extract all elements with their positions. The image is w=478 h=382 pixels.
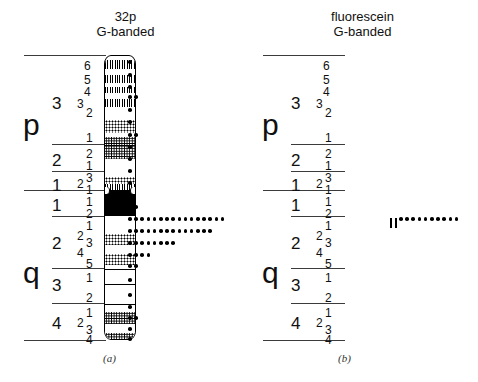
region-label-q4-b: 4	[291, 315, 300, 332]
subband-label-p34-a: 4	[84, 86, 91, 98]
subband-label-q31-b: 1	[325, 272, 332, 284]
signal-dot	[128, 278, 132, 282]
signal-dot	[165, 241, 169, 245]
signal-dot	[134, 253, 138, 257]
signal-dot	[153, 229, 157, 233]
signal-dot	[140, 253, 144, 257]
signal-dot	[153, 217, 157, 221]
leader-line-a-p1	[52, 171, 106, 172]
signal-dot	[140, 217, 144, 221]
subband-label-q24-b: 4	[316, 247, 323, 259]
leader-line-b-q4	[291, 303, 345, 304]
caption-a: (a)	[0, 352, 229, 364]
signal-row-q44	[128, 337, 134, 343]
signal-dot	[134, 217, 138, 221]
signal-row-q41	[128, 305, 134, 311]
signal-dot	[202, 229, 206, 233]
signal-dot	[134, 95, 138, 99]
signal-dot	[134, 241, 138, 245]
subband-label-p34-b: 4	[323, 86, 330, 98]
subband-label-q31-a: 1	[86, 272, 93, 284]
subband-label-q42-a: 2	[77, 317, 84, 329]
signal-dot	[128, 316, 132, 320]
signal-row-p32	[128, 108, 134, 114]
signal-row-q25	[128, 264, 140, 270]
leader-line-a-p2	[52, 144, 106, 145]
leader-line-b-cen	[263, 190, 345, 191]
subband-label-q25-b: 5	[325, 258, 332, 270]
leader-line-a-top	[24, 55, 106, 56]
panel-b-title: fluorescein G-banded	[243, 9, 478, 39]
subband-label-p31-a: 1	[86, 132, 93, 144]
subband-label-q42-b: 2	[316, 317, 323, 329]
signal-dot	[140, 241, 144, 245]
signal-dot	[128, 85, 132, 89]
signal-row-p22	[128, 133, 140, 139]
signal-dot	[159, 241, 163, 245]
signal-dot	[128, 133, 132, 137]
region-label-p3-a: 3	[52, 95, 61, 112]
leader-line-a-q1	[52, 216, 106, 217]
leader-line-b-top	[263, 55, 345, 56]
signal-dot	[128, 305, 132, 309]
region-label-q3-a: 3	[52, 277, 61, 294]
subband-label-q41-a: 1	[86, 307, 93, 319]
signal-dot	[128, 145, 132, 149]
arm-label-q-a: q	[23, 258, 40, 288]
signal-dot	[449, 217, 453, 221]
signal-dot	[184, 229, 188, 233]
arm-label-p-b: p	[262, 110, 279, 140]
signal-dot	[134, 205, 138, 209]
signal-dot	[184, 217, 188, 221]
panel-a-title-line2: G-banded	[6, 24, 245, 39]
subband-label-q23-b: 3	[325, 237, 332, 249]
signal-dot	[171, 217, 175, 221]
signal-row-q21	[390, 217, 461, 223]
subband-label-p33-b: 3	[316, 98, 323, 110]
signal-row-p34	[128, 85, 134, 91]
subband-label-q23-a: 3	[86, 237, 93, 249]
arm-label-q-b: q	[262, 258, 279, 288]
leader-line-b-q3	[291, 268, 345, 269]
panel-b-title-line1: fluorescein	[243, 9, 478, 24]
signal-dot	[128, 60, 132, 64]
signal-dot	[134, 316, 138, 320]
signal-row-p12	[128, 169, 134, 175]
subband-label-q21-b: 1	[325, 220, 332, 232]
signal-dot	[399, 217, 403, 221]
panel-a-32p: 32p G-banded p q 3 2 1 1 2 3 4 6 5 4 3 2…	[0, 0, 239, 382]
band-q31-a	[105, 284, 135, 285]
signal-dot	[153, 241, 157, 245]
signal-dot	[128, 73, 132, 77]
subband-label-p33-a: 3	[77, 98, 84, 110]
leader-line-b-p1	[291, 171, 345, 172]
panel-a-title-line1: 32p	[6, 9, 245, 24]
signal-dot	[128, 217, 132, 221]
subband-label-p12-a: 2	[77, 178, 84, 190]
signal-dot	[411, 217, 415, 221]
signal-row-p35	[128, 73, 134, 79]
signal-dot	[159, 217, 163, 221]
centromere-notch-right-a	[130, 187, 136, 194]
signal-dot	[147, 241, 151, 245]
signal-dot	[128, 229, 132, 233]
subband-label-q41-b: 1	[325, 307, 332, 319]
subband-label-p32-a: 2	[86, 107, 93, 119]
signal-row-q43	[128, 327, 134, 333]
signal-row-p21	[128, 145, 134, 151]
signal-dot	[178, 229, 182, 233]
signal-dot	[134, 133, 138, 137]
signal-dot	[128, 108, 132, 112]
signal-row-q22	[128, 229, 215, 235]
region-label-q1-a: 1	[52, 197, 61, 214]
region-label-q4-a: 4	[52, 315, 61, 332]
signal-dot	[196, 217, 200, 221]
signal-dot	[140, 229, 144, 233]
panel-b-fluorescein: fluorescein G-banded p q 3 2 1 1 2 3 4 6…	[239, 0, 478, 382]
signal-dot	[196, 229, 200, 233]
signal-row-q21	[128, 217, 227, 223]
signal-dot	[128, 181, 132, 185]
band-centromere-a	[105, 190, 135, 216]
subband-label-p32-b: 2	[325, 107, 332, 119]
signal-dot	[424, 217, 428, 221]
